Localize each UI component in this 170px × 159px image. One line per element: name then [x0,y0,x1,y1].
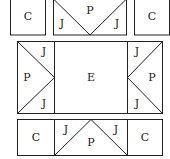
left-bottom-j-label: J [41,97,46,110]
center-square: E [87,71,95,84]
center-e-label: E [87,71,95,84]
right-p-label: P [148,71,156,84]
bottom-right-label: C [141,131,149,144]
bottom-row: C J P J C [18,120,163,156]
right-bottom-j-label: J [134,97,139,110]
top-left-corner-square: C [11,0,46,35]
top-left-j-label: J [59,17,64,30]
left-p-label: P [23,71,31,84]
top-right-label: C [148,10,156,23]
bottom-center-p-label: P [87,136,95,149]
left-top-j-label: J [41,45,46,58]
bottom-right-j-label: J [113,123,118,136]
right-top-j-label: J [134,45,139,58]
quilt-block-diagram: C P J J C J P J E [0,0,170,159]
bottom-left-j-label: J [63,123,68,136]
top-row: C P J J C [11,0,170,35]
top-center-p-label: P [86,4,94,17]
middle-row: J P J E J P J [18,42,163,114]
top-right-corner-square: C [135,0,170,35]
bottom-left-corner-square: C [32,131,40,144]
bottom-right-corner-square: C [141,131,149,144]
top-right-j-label: J [114,17,119,30]
bottom-left-label: C [32,131,40,144]
top-left-label: C [24,10,32,23]
top-flying-geese-unit: P J J [54,0,127,35]
